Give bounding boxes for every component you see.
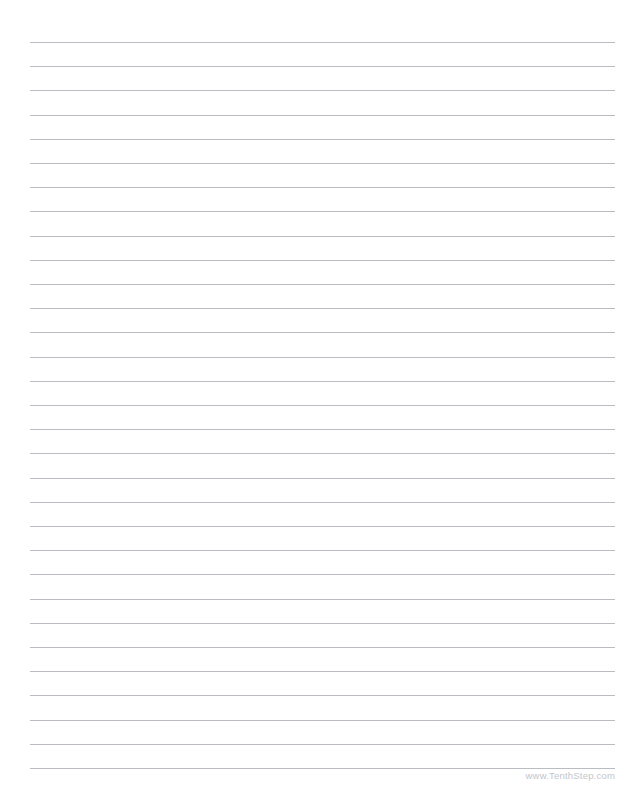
- ruled-line: [30, 550, 615, 551]
- ruled-line: [30, 66, 615, 67]
- ruled-line: [30, 260, 615, 261]
- ruled-line: [30, 357, 615, 358]
- ruled-line: [30, 163, 615, 164]
- ruled-line: [30, 429, 615, 430]
- ruled-line: [30, 526, 615, 527]
- ruled-line: [30, 623, 615, 624]
- ruled-line: [30, 574, 615, 575]
- ruled-line: [30, 744, 615, 745]
- ruled-line: [30, 453, 615, 454]
- ruled-line: [30, 768, 615, 769]
- ruled-line: [30, 381, 615, 382]
- ruled-line: [30, 284, 615, 285]
- ruled-line: [30, 90, 615, 91]
- ruled-line: [30, 115, 615, 116]
- ruled-line: [30, 139, 615, 140]
- ruled-line: [30, 695, 615, 696]
- ruled-line: [30, 599, 615, 600]
- ruled-line: [30, 671, 615, 672]
- ruled-line: [30, 187, 615, 188]
- ruled-line: [30, 236, 615, 237]
- ruled-line: [30, 211, 615, 212]
- ruled-line: [30, 720, 615, 721]
- ruled-line: [30, 502, 615, 503]
- lined-paper-page: www.TenthStep.com: [0, 0, 644, 798]
- ruled-line: [30, 332, 615, 333]
- footer-website-credit: www.TenthStep.com: [0, 770, 615, 781]
- ruled-line: [30, 647, 615, 648]
- ruled-line: [30, 405, 615, 406]
- ruled-lines-area: [0, 0, 644, 798]
- ruled-line: [30, 308, 615, 309]
- ruled-line: [30, 42, 615, 43]
- ruled-line: [30, 478, 615, 479]
